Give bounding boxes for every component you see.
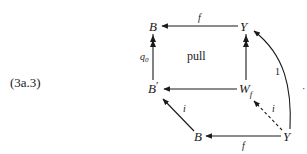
equation-label: (3a.3) <box>10 75 41 90</box>
label-curve-1: 1 <box>275 66 280 77</box>
label-diag-left-i: i <box>183 103 186 114</box>
label-left-q-subscript: 0 <box>145 56 149 64</box>
label-diag-right-i: i <box>272 103 275 114</box>
node-mid-left-Bprime: B′ <box>148 79 158 96</box>
square-label-pull: pull <box>187 49 206 63</box>
node-top-right-Y: Y <box>240 19 249 34</box>
node-top-left-B: B <box>149 19 157 34</box>
label-left-q: q0 <box>140 51 149 64</box>
double-arrowhead-left-icon <box>150 35 156 47</box>
commutative-diagram: (3a.3) B Y f q0 pull B′ Wf B Y f B' (lab… <box>0 0 307 154</box>
label-top-f: f <box>198 12 202 23</box>
subscript-f: f <box>250 89 254 99</box>
label-bottom-f: f <box>242 140 246 151</box>
arrow-diag-left-i <box>163 99 194 131</box>
node-bottom-left-B: B <box>194 129 202 144</box>
node-mid-right-Wf: Wf <box>239 81 254 99</box>
prime-mark: ′ <box>156 79 158 91</box>
stray-mark: · <box>302 83 305 94</box>
arrow-diag-right-dashed-i <box>254 101 282 130</box>
node-bottom-right-Y: Y <box>283 129 292 144</box>
arrow-curve-identity <box>254 31 290 129</box>
double-arrowhead-right-icon <box>243 35 249 47</box>
